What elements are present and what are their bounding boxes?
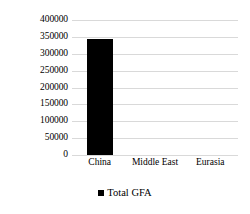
bar-slot	[72, 20, 127, 155]
legend-label-total-gfa: Total GFA	[107, 188, 151, 199]
x-axis-tick-labels: ChinaMiddle EastEurasia	[72, 157, 238, 167]
y-axis-tick-label: 300000	[0, 49, 68, 59]
bar-slot	[183, 20, 238, 155]
chart-legend: Total GFA	[0, 188, 250, 199]
x-axis-tick-label: Eurasia	[183, 157, 238, 167]
y-axis-tick-label: 200000	[0, 83, 68, 93]
x-axis-tick-label: China	[72, 157, 127, 167]
y-axis-tick-label: 100000	[0, 117, 68, 127]
y-axis-tick-label: 150000	[0, 100, 68, 110]
y-axis-tick-label: 50000	[0, 133, 68, 143]
y-axis-tick-label: 350000	[0, 32, 68, 42]
bar-series-total-gfa	[72, 20, 238, 155]
plot-wrapper: 4000003500003000002500002000001500001000…	[0, 0, 250, 160]
legend-swatch-total-gfa	[98, 190, 104, 196]
plot-area	[72, 20, 238, 155]
bar	[87, 39, 113, 155]
y-axis-tick-label: 0	[0, 150, 68, 160]
x-axis-tick-label: Middle East	[127, 157, 182, 167]
y-axis-tick-label: 400000	[0, 15, 68, 25]
axis-baseline	[72, 155, 238, 156]
y-axis-tick-labels: 4000003500003000002500002000001500001000…	[0, 20, 68, 155]
bar-chart: 4000003500003000002500002000001500001000…	[0, 0, 250, 214]
y-axis-tick-label: 250000	[0, 66, 68, 76]
bar-slot	[127, 20, 182, 155]
